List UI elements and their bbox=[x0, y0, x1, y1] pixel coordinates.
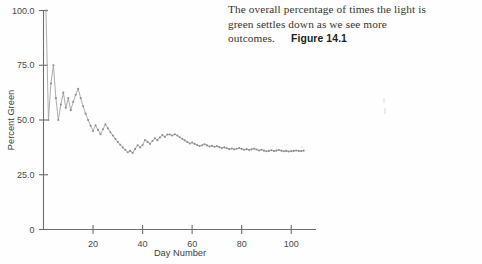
data-point bbox=[253, 148, 255, 150]
data-point bbox=[139, 146, 141, 148]
scan-artifact bbox=[383, 98, 385, 103]
figure-number: Figure 14.1 bbox=[291, 33, 347, 44]
data-point bbox=[208, 145, 210, 147]
data-point bbox=[213, 146, 215, 148]
data-point bbox=[179, 136, 181, 138]
data-point bbox=[77, 88, 79, 90]
data-point bbox=[154, 137, 156, 139]
data-point bbox=[226, 147, 228, 149]
data-point bbox=[283, 150, 285, 152]
data-point bbox=[295, 149, 297, 151]
data-point bbox=[273, 150, 275, 152]
data-point bbox=[104, 123, 106, 125]
x-axis-title: Day Number bbox=[154, 248, 206, 258]
data-point bbox=[293, 150, 295, 152]
data-point bbox=[67, 97, 69, 99]
data-point bbox=[285, 150, 287, 152]
data-point bbox=[122, 146, 124, 148]
data-point bbox=[119, 144, 121, 146]
data-point bbox=[241, 148, 243, 150]
data-point bbox=[147, 141, 149, 143]
data-point bbox=[194, 143, 196, 145]
data-point bbox=[211, 145, 213, 147]
data-point bbox=[149, 143, 151, 145]
data-point bbox=[127, 151, 129, 153]
y-tick-label: 75.0 bbox=[17, 60, 35, 70]
data-point bbox=[263, 150, 265, 152]
data-point bbox=[107, 127, 109, 129]
data-point bbox=[303, 150, 305, 152]
data-point bbox=[72, 101, 74, 103]
x-tick-label: 80 bbox=[237, 239, 247, 249]
data-point bbox=[246, 148, 248, 150]
data-point bbox=[164, 136, 166, 138]
data-point bbox=[243, 149, 245, 151]
data-point bbox=[90, 125, 92, 127]
data-point bbox=[137, 144, 139, 146]
data-point bbox=[236, 148, 238, 150]
data-point bbox=[189, 142, 191, 144]
data-point bbox=[174, 133, 176, 135]
data-point bbox=[258, 149, 260, 151]
data-point bbox=[186, 141, 188, 143]
data-point bbox=[228, 148, 230, 150]
data-point bbox=[75, 94, 77, 96]
data-point bbox=[290, 150, 292, 152]
data-point bbox=[156, 139, 158, 141]
data-point bbox=[278, 149, 280, 151]
y-tick-label: 100.0 bbox=[12, 6, 35, 16]
x-tick-label: 100 bbox=[284, 239, 299, 249]
data-point bbox=[97, 129, 99, 131]
data-point bbox=[65, 107, 67, 109]
data-point bbox=[82, 105, 84, 107]
data-point bbox=[55, 97, 57, 99]
data-point bbox=[280, 150, 282, 152]
x-axis-ticks: 20406080100 bbox=[88, 225, 299, 249]
data-point bbox=[144, 139, 146, 141]
scan-artifact bbox=[384, 108, 386, 114]
data-point bbox=[223, 146, 225, 148]
data-point bbox=[80, 97, 82, 99]
data-point bbox=[99, 133, 101, 135]
data-point bbox=[129, 150, 131, 152]
data-point bbox=[114, 138, 116, 140]
data-point bbox=[251, 148, 253, 150]
data-point bbox=[298, 150, 300, 152]
data-point bbox=[218, 146, 220, 148]
y-tick-label: 0 bbox=[29, 225, 34, 235]
data-point bbox=[199, 145, 201, 147]
data-point bbox=[248, 149, 250, 151]
data-point bbox=[161, 134, 163, 136]
data-point bbox=[52, 64, 54, 66]
data-point bbox=[62, 92, 64, 94]
data-point bbox=[288, 150, 290, 152]
data-point bbox=[255, 149, 257, 151]
data-point bbox=[85, 113, 87, 115]
data-point bbox=[132, 152, 134, 154]
data-point bbox=[265, 150, 267, 152]
data-point bbox=[45, 9, 47, 11]
data-point bbox=[260, 149, 262, 151]
data-point bbox=[201, 144, 203, 146]
data-point bbox=[176, 135, 178, 137]
data-point bbox=[159, 136, 161, 138]
data-point bbox=[268, 150, 270, 152]
data-point bbox=[57, 119, 59, 121]
data-point bbox=[191, 142, 193, 144]
y-axis-title: Percent Green bbox=[6, 90, 16, 150]
data-point bbox=[270, 149, 272, 151]
data-point bbox=[70, 109, 72, 111]
data-point bbox=[134, 148, 136, 150]
data-point bbox=[203, 143, 205, 145]
data-point bbox=[181, 138, 183, 140]
data-point bbox=[196, 144, 198, 146]
data-point bbox=[233, 148, 235, 150]
x-tick-label: 40 bbox=[138, 239, 148, 249]
data-point bbox=[216, 145, 218, 147]
data-point bbox=[151, 140, 153, 142]
data-point bbox=[184, 139, 186, 141]
y-axis-ticks: 025.050.075.0100.0 bbox=[12, 6, 48, 235]
data-point bbox=[112, 135, 114, 137]
figure-page: 025.050.075.0100.0 20406080100 Percent G… bbox=[0, 0, 482, 264]
data-point bbox=[60, 103, 62, 105]
